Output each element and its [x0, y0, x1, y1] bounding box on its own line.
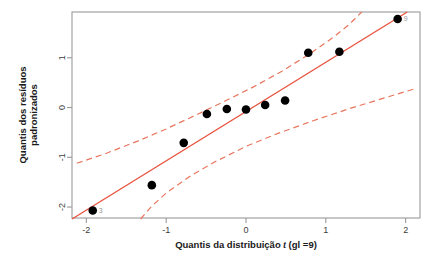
x-tick-label: 2	[403, 225, 408, 235]
data-point-label: 3	[99, 207, 103, 214]
figure-background	[0, 0, 436, 267]
y-tick-label: -1	[57, 153, 67, 161]
y-tick-label: -2	[57, 203, 67, 211]
y-tick-label: 0	[57, 105, 67, 110]
x-axis-title-before: Quantis da distribuição	[175, 239, 283, 250]
x-axis-title: Quantis da distribuição t (gl =9)	[175, 239, 317, 250]
data-point	[393, 15, 402, 24]
y-tick-label: 1	[57, 55, 67, 60]
data-point	[261, 101, 270, 110]
x-tick-label: -1	[162, 225, 170, 235]
data-point	[223, 105, 232, 114]
data-point	[203, 110, 212, 119]
data-point	[304, 49, 313, 58]
data-point	[335, 48, 344, 57]
data-point	[179, 139, 188, 148]
qq-plot-figure: -2-1012 10-1-2 39 Quantis da distribuiçã…	[0, 0, 436, 267]
x-tick-label: 0	[243, 225, 248, 235]
data-point	[88, 206, 97, 215]
x-tick-label: 1	[323, 225, 328, 235]
y-axis-title-line1: Quantis dos resíduos	[17, 66, 28, 163]
data-point	[148, 181, 157, 190]
data-point-label: 9	[404, 15, 408, 22]
qq-plot-screenshot: -2-1012 10-1-2 39 Quantis da distribuiçã…	[0, 0, 436, 267]
x-tick-label: -2	[82, 225, 90, 235]
x-axis-title-after: (gl =9)	[286, 239, 317, 250]
data-point	[242, 105, 251, 114]
data-point	[281, 96, 290, 105]
x-axis-title-text: Quantis da distribuição t (gl =9)	[175, 239, 317, 250]
y-axis-title-line2: padronizados	[28, 84, 39, 146]
